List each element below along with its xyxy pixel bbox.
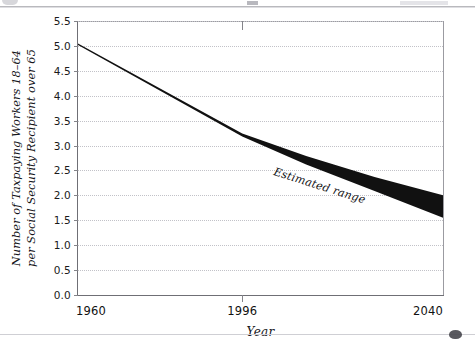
y-axis-tick-label: 1.0 (54, 239, 71, 251)
y-axis-title-line-1: Number of Taxpaying Workers 18–64 (9, 49, 24, 267)
y-axis-tick-label: 2.5 (54, 164, 71, 176)
x-axis-tick (242, 295, 243, 302)
y-axis-tick-label: 5.0 (54, 40, 71, 52)
x-axis-tick-label: 1960 (76, 304, 106, 318)
y-axis-tick-label: 5.5 (54, 15, 71, 27)
chart-figure: 0.00.51.01.52.02.53.03.54.04.55.05.5 196… (0, 0, 475, 345)
y-axis-tick-label: 0.5 (54, 264, 71, 276)
y-axis-title: Number of Taxpaying Workers 18–64 per So… (4, 21, 44, 295)
page-bottom-rule (0, 334, 475, 335)
y-axis-tick-label: 3.5 (54, 115, 71, 127)
x-axis-title: Year (78, 325, 443, 339)
y-axis-tick-label: 2.0 (54, 189, 71, 201)
page-bottom-artifact (449, 330, 462, 339)
plot-area: 0.00.51.01.52.02.53.03.54.04.55.05.5 196… (78, 21, 443, 295)
y-axis-tick-label: 3.0 (54, 140, 71, 152)
y-axis-tick-label: 4.5 (54, 65, 71, 77)
x-axis-tick-label: 1996 (227, 304, 257, 318)
estimated-range-band (78, 21, 443, 295)
y-axis-tick (74, 295, 78, 296)
y-axis-tick-label: 0.0 (54, 289, 71, 301)
x-axis-tick-label: 2040 (413, 304, 443, 318)
y-axis-title-line-2: per Social Security Recipient over 65 (24, 49, 39, 267)
y-axis-tick-label: 4.0 (54, 90, 71, 102)
y-axis-tick-label: 1.5 (54, 214, 71, 226)
